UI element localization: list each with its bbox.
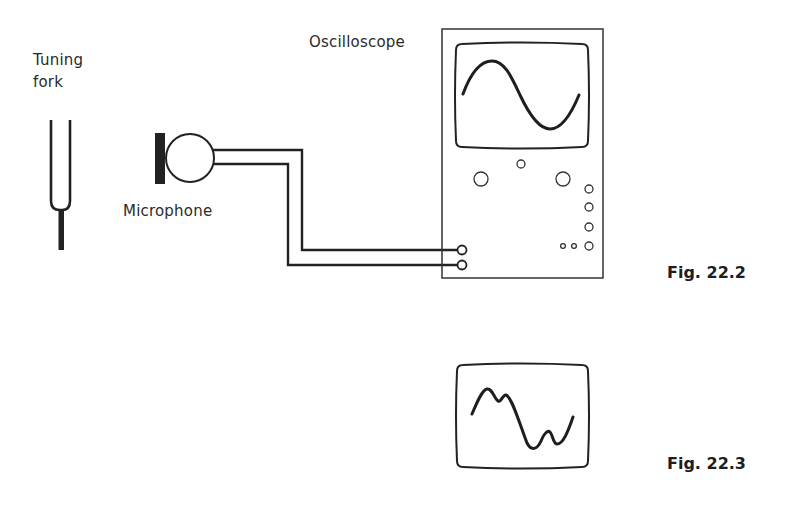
tiny-knob-2[interactable] [572,244,577,249]
tiny-knob-1[interactable] [561,244,566,249]
large-knob-left[interactable] [474,172,488,186]
right-knob-4[interactable] [585,242,593,250]
microphone-label: Microphone [123,202,212,220]
oscilloscope-body [442,29,603,278]
microphone-icon [155,133,214,184]
right-knob-2[interactable] [585,203,593,211]
tuning-fork-label-line2: fork [33,73,63,91]
figure-caption-22-3: Fig. 22.3 [667,454,746,473]
input-terminal-2[interactable] [458,261,467,270]
oscilloscope-label: Oscilloscope [309,33,405,51]
oscilloscope-group: Oscilloscope [309,29,603,278]
figure-caption-22-2: Fig. 22.2 [667,263,746,282]
input-terminal-1[interactable] [458,246,467,255]
tuning-fork-label-line1: Tuning [32,51,83,69]
right-knob-1[interactable] [585,185,593,193]
tuning-fork-group: Tuning fork [32,51,83,250]
physics-diagram: Tuning fork Microphone Oscilloscope [0,0,808,518]
distorted-wave-screen [456,364,589,469]
right-knob-3[interactable] [585,223,593,231]
figure-22-3-group [456,364,589,469]
tuning-fork-icon [51,120,70,250]
oscilloscope-screen [455,43,589,149]
sine-wave-trace [463,61,579,129]
distorted-wave-trace [472,389,573,448]
microphone-group: Microphone [123,133,214,220]
large-knob-right[interactable] [556,172,570,186]
small-top-knob[interactable] [517,160,525,168]
connecting-wires [213,150,458,265]
